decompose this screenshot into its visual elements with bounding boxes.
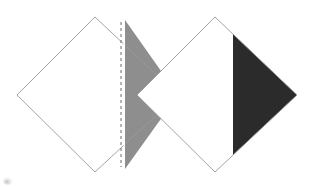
fold-diagram — [0, 0, 315, 186]
diagram-canvas — [0, 0, 315, 186]
